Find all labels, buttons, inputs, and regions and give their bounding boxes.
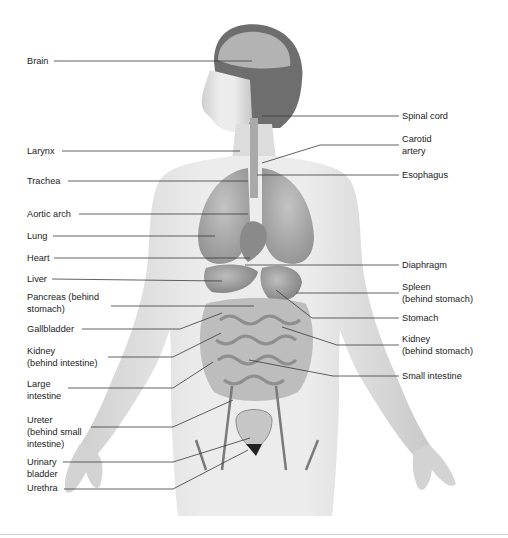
right-hand [413, 444, 456, 490]
label-kidney-behind-stomach: Kidney (behind stomach) [402, 333, 473, 357]
label-gallbladder: Gallbladder [27, 323, 74, 335]
label-pancreas: Pancreas (behind stomach) [27, 291, 99, 315]
label-kidney-behind-intestine: Kidney (behind intestine) [27, 345, 97, 369]
label-lung: Lung [27, 230, 47, 242]
label-spleen: Spleen (behind stomach) [402, 281, 473, 305]
label-stomach: Stomach [402, 312, 438, 324]
label-ureter: Ureter (behind small intestine) [27, 414, 82, 450]
label-small-intestine: Small intestine [402, 370, 462, 382]
anatomy-diagram: Brain Larynx Trachea Aortic arch Lung He… [0, 0, 508, 538]
trachea [250, 118, 258, 198]
label-larynx: Larynx [27, 145, 55, 157]
intestines [200, 298, 313, 401]
label-heart: Heart [27, 252, 49, 264]
label-liver: Liver [27, 273, 47, 285]
bottom-divider [0, 534, 508, 535]
label-urethra: Urethra [27, 482, 58, 494]
label-urinary-bladder: Urinary bladder [27, 456, 58, 480]
label-trachea: Trachea [27, 175, 60, 187]
label-diaphragm: Diaphragm [402, 259, 447, 271]
label-aortic-arch: Aortic arch [27, 208, 71, 220]
label-esophagus: Esophagus [402, 169, 448, 181]
label-large-intestine: Large intestine [27, 378, 61, 402]
label-brain: Brain [27, 55, 48, 67]
label-carotid-artery: Carotid artery [402, 133, 432, 157]
label-spinal-cord: Spinal cord [402, 110, 448, 122]
